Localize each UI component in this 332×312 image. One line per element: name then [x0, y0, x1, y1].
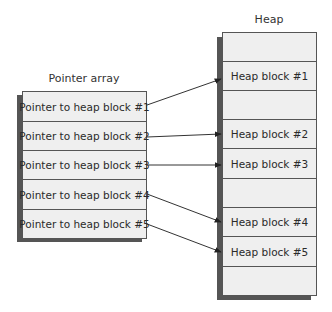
arrow-1: [147, 79, 221, 105]
arrow-5: [147, 224, 221, 252]
arrow-4: [147, 194, 221, 222]
arrow-2: [147, 134, 221, 137]
pointer-arrows: [0, 0, 332, 312]
